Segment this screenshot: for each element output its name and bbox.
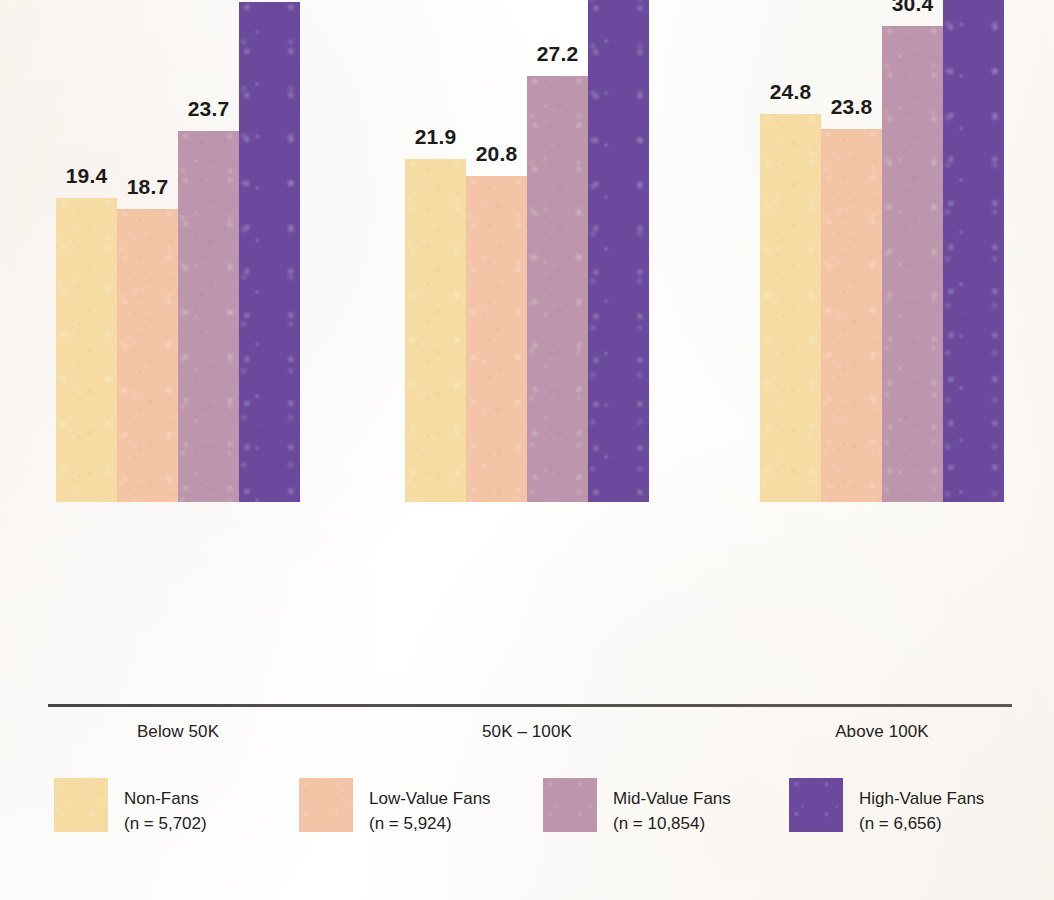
bar-item[interactable]: 23.8: [821, 129, 882, 502]
bar-rect[interactable]: [117, 209, 178, 502]
x-axis-line: [48, 704, 1012, 707]
bar-rect[interactable]: [178, 131, 239, 502]
bar-item[interactable]: 39.1: [943, 0, 1004, 502]
bar-rect[interactable]: [466, 176, 527, 502]
bar-rect[interactable]: [882, 26, 943, 502]
legend-text-block: Mid-Value Fans(n = 10,854): [613, 778, 731, 836]
legend-item[interactable]: High-Value Fans(n = 6,656): [789, 778, 984, 836]
bar-rect[interactable]: [588, 0, 649, 502]
bar-rect[interactable]: [760, 114, 821, 502]
bar-rect[interactable]: [239, 2, 300, 502]
legend-color-swatch: [789, 778, 843, 832]
category-label: Below 50K: [137, 722, 219, 742]
bar-value-label: 23.7: [188, 97, 230, 121]
legend-color-swatch: [543, 778, 597, 832]
bar-value-label: 21.9: [415, 125, 457, 149]
bar-value-label: 19.4: [66, 164, 108, 188]
bar-rect[interactable]: [821, 129, 882, 502]
chart-container: 19.418.723.731.921.920.827.234.724.823.8…: [0, 0, 1054, 900]
legend-sample-size: (n = 6,656): [859, 811, 984, 836]
bar-value-label: 20.8: [476, 142, 518, 166]
legend-sample-size: (n = 5,924): [369, 811, 491, 836]
legend-color-swatch: [299, 778, 353, 832]
bar-group: 24.823.830.439.1: [760, 0, 1004, 502]
legend-sample-size: (n = 10,854): [613, 811, 731, 836]
legend-series-name: Low-Value Fans: [369, 786, 491, 811]
category-label: 50K – 100K: [482, 722, 572, 742]
bar-value-label: 30.4: [892, 0, 934, 16]
bar-rect[interactable]: [56, 198, 117, 502]
bar-item[interactable]: 18.7: [117, 209, 178, 502]
legend-sample-size: (n = 5,702): [124, 811, 207, 836]
bar-group: 19.418.723.731.9: [56, 0, 300, 502]
legend-text-block: Non-Fans(n = 5,702): [124, 778, 207, 836]
bar-item[interactable]: 27.2: [527, 76, 588, 502]
legend-item[interactable]: Mid-Value Fans(n = 10,854): [543, 778, 731, 836]
bar-value-label: 18.7: [127, 175, 169, 199]
bar-value-label: 24.8: [770, 80, 812, 104]
bar-value-label: 27.2: [537, 42, 579, 66]
bar-item[interactable]: 30.4: [882, 26, 943, 502]
legend-text-block: High-Value Fans(n = 6,656): [859, 778, 984, 836]
bar-rect[interactable]: [527, 76, 588, 502]
bar-item[interactable]: 31.9: [239, 2, 300, 502]
chart-legend: Non-Fans(n = 5,702)Low-Value Fans(n = 5,…: [0, 778, 1054, 848]
legend-series-name: High-Value Fans: [859, 786, 984, 811]
bar-value-label: 23.8: [831, 95, 873, 119]
bar-item[interactable]: 19.4: [56, 198, 117, 502]
bar-item[interactable]: 20.8: [466, 176, 527, 502]
legend-item[interactable]: Low-Value Fans(n = 5,924): [299, 778, 491, 836]
legend-text-block: Low-Value Fans(n = 5,924): [369, 778, 491, 836]
bar-rect[interactable]: [405, 159, 466, 502]
legend-color-swatch: [54, 778, 108, 832]
legend-series-name: Non-Fans: [124, 786, 207, 811]
legend-series-name: Mid-Value Fans: [613, 786, 731, 811]
legend-item[interactable]: Non-Fans(n = 5,702): [54, 778, 207, 836]
bar-item[interactable]: 23.7: [178, 131, 239, 502]
bar-item[interactable]: 21.9: [405, 159, 466, 502]
bar-item[interactable]: 24.8: [760, 114, 821, 502]
bar-group: 21.920.827.234.7: [405, 0, 649, 502]
category-label: Above 100K: [835, 722, 929, 742]
bar-rect[interactable]: [943, 0, 1004, 502]
plot-area: 19.418.723.731.921.920.827.234.724.823.8…: [0, 0, 1054, 712]
bar-item[interactable]: 34.7: [588, 0, 649, 502]
